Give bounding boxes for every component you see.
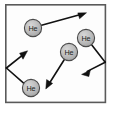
gas-particle-diagram: He He He He	[0, 0, 122, 113]
atom-2: He	[77, 29, 94, 46]
atom-label: He	[82, 34, 91, 43]
atom-4: He	[22, 79, 39, 96]
atom-label: He	[27, 84, 36, 93]
atom-label: He	[65, 48, 74, 57]
atom-label: He	[29, 24, 38, 33]
atom-3: He	[60, 43, 77, 60]
atom-1: He	[24, 19, 41, 36]
diagram-canvas: He He He He	[0, 0, 122, 113]
